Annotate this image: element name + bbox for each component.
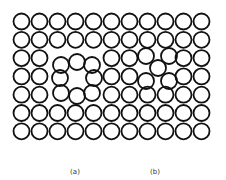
- lattice-atom: [14, 105, 30, 121]
- lattice-atom: [50, 105, 66, 121]
- lattice-atom: [140, 123, 156, 139]
- lattice-atom: [50, 14, 66, 30]
- lattice-atom: [104, 14, 120, 30]
- lattice-atom: [86, 105, 102, 121]
- panel-label-b: (b): [150, 168, 160, 176]
- lattice-atom: [194, 32, 210, 48]
- lattice-atom: [194, 123, 210, 139]
- lattice-atom: [104, 87, 120, 103]
- lattice-atom: [122, 123, 138, 139]
- lattice-atom: [176, 68, 192, 84]
- lattice-atom: [140, 105, 156, 121]
- lattice-atom: [104, 105, 120, 121]
- lattice-atom: [86, 123, 102, 139]
- lattice-atom: [68, 32, 84, 48]
- lattice-atom: [50, 32, 66, 48]
- lattice-atom: [176, 32, 192, 48]
- lattice-atom: [32, 105, 48, 121]
- lattice-atom: [176, 14, 192, 30]
- lattice-atom: [68, 14, 84, 30]
- lattice-atom: [104, 123, 120, 139]
- lattice-atom: [176, 123, 192, 139]
- lattice-atom: [122, 14, 138, 30]
- lattice-atom: [122, 50, 138, 66]
- panel-label-a: (a): [70, 168, 80, 176]
- lattice-atom: [32, 87, 48, 103]
- lattice-atom: [32, 32, 48, 48]
- lattice-atom: [68, 105, 84, 121]
- lattice-atom: [194, 14, 210, 30]
- lattice-atom: [32, 14, 48, 30]
- vacancy-defect-atom: [69, 54, 85, 70]
- lattice-atom: [176, 50, 192, 66]
- lattice-atom: [158, 123, 174, 139]
- interstitial-defect-atom: [138, 48, 154, 64]
- lattice-atom: [32, 68, 48, 84]
- lattice-diagram: [0, 0, 226, 180]
- lattice-atom: [122, 105, 138, 121]
- lattice-atom: [176, 105, 192, 121]
- vacancy-defect-atom: [84, 85, 100, 101]
- lattice-atom: [122, 32, 138, 48]
- lattice-atom: [14, 32, 30, 48]
- lattice-atom: [14, 14, 30, 30]
- lattice-atom: [14, 87, 30, 103]
- lattice-atom: [104, 50, 120, 66]
- vacancy-defect-atom: [53, 85, 69, 101]
- lattice-atom: [14, 123, 30, 139]
- lattice-atom: [194, 50, 210, 66]
- lattice-atom: [14, 68, 30, 84]
- lattice-atom: [158, 105, 174, 121]
- lattice-atom: [104, 32, 120, 48]
- lattice-atom: [122, 68, 138, 84]
- lattice-atom: [140, 14, 156, 30]
- atom-lattice: [14, 14, 210, 140]
- lattice-atom: [140, 32, 156, 48]
- lattice-atom: [104, 68, 120, 84]
- lattice-atom: [158, 32, 174, 48]
- lattice-atom: [32, 123, 48, 139]
- lattice-atom: [194, 105, 210, 121]
- lattice-atom: [158, 14, 174, 30]
- lattice-atom: [50, 123, 66, 139]
- lattice-atom: [194, 68, 210, 84]
- lattice-atom: [86, 32, 102, 48]
- lattice-atom: [86, 14, 102, 30]
- vacancy-defect-atom: [69, 88, 85, 104]
- lattice-atom: [122, 87, 138, 103]
- interstitial-defect-atom: [150, 60, 166, 76]
- lattice-atom: [176, 87, 192, 103]
- lattice-atom: [32, 50, 48, 66]
- lattice-atom: [68, 123, 84, 139]
- lattice-atom: [14, 50, 30, 66]
- lattice-atom: [194, 87, 210, 103]
